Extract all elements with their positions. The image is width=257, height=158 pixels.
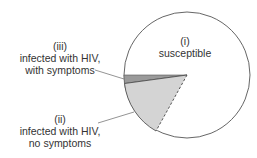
label-num: (iii) [0,40,120,52]
label-num: (ii) [5,113,115,125]
label-no-symptoms: (ii) infected with HIV, no symptoms [5,113,115,149]
label-text: infected with HIV, [0,52,120,64]
label-text: infected with HIV, [5,125,115,137]
label-text: susceptible [150,47,220,59]
label-num: (i) [150,35,220,47]
label-susceptible: (i) susceptible [150,35,220,59]
label-with-symptoms: (iii) infected with HIV, with symptoms [0,40,120,76]
label-text: with symptoms [0,64,120,76]
label-text: no symptoms [5,137,115,149]
